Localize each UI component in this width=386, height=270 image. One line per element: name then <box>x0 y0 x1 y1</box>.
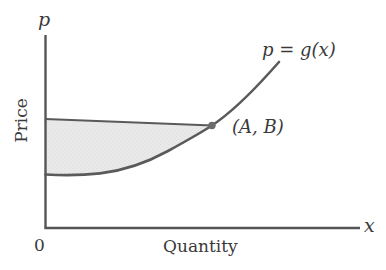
horizontal-axis-symbol: x <box>364 216 375 235</box>
marked-point-ab <box>208 122 215 129</box>
vertical-axis-symbol: p <box>38 10 50 29</box>
curve-equation-label: p = g(x) <box>262 41 336 59</box>
x-axis-title: Quantity <box>163 238 238 255</box>
producer-surplus-figure: p x 0 Quantity Price p = g(x) (A, B) <box>0 0 386 270</box>
origin-label: 0 <box>34 237 45 254</box>
y-axis-title: Price <box>13 93 30 149</box>
point-coordinates-label: (A, B) <box>232 118 284 136</box>
